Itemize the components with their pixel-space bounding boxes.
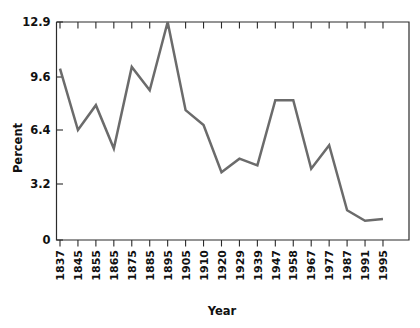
y-axis-tick-group — [57, 22, 64, 240]
x-axis-tick-label: 1905 — [180, 250, 193, 281]
x-axis-tick-label: 1977 — [323, 250, 336, 281]
y-axis-tick-labels: 03.26.49.612.9 — [22, 15, 50, 247]
x-axis-tick-label: 1885 — [144, 250, 157, 281]
x-axis-tick-label: 1967 — [305, 250, 318, 281]
x-axis-tick-label: 1865 — [108, 250, 121, 281]
x-axis-tick-label: 1875 — [126, 250, 139, 281]
y-axis-tick-label: 0 — [42, 233, 50, 247]
x-axis-tick-label: 1895 — [162, 250, 175, 281]
x-axis-tick-label: 1920 — [216, 250, 229, 281]
y-axis-title: Percent — [11, 122, 25, 173]
x-axis-tick-label: 1987 — [341, 250, 354, 281]
x-axis-title: Year — [207, 304, 237, 318]
y-axis-tick-label: 9.6 — [30, 70, 50, 84]
axis-frame — [57, 22, 410, 240]
x-axis-tick-label: 1837 — [54, 250, 67, 281]
x-axis-tick-label: 1929 — [234, 250, 247, 281]
chart-container: 03.26.49.612.9 1837184518551865187518851… — [0, 0, 420, 328]
data-series-line — [60, 22, 383, 221]
x-axis-tick-label: 1855 — [90, 250, 103, 281]
line-chart-svg: 03.26.49.612.9 1837184518551865187518851… — [0, 0, 420, 328]
y-axis-tick-label: 6.4 — [30, 123, 50, 137]
y-axis-tick-label: 3.2 — [30, 177, 50, 191]
x-axis-tick-label: 1947 — [270, 250, 283, 281]
x-axis-tick-label: 1910 — [198, 250, 211, 281]
x-axis-tick-label: 1939 — [252, 250, 265, 281]
x-axis-tick-labels: 1837184518551865187518851895190519101920… — [54, 250, 390, 281]
x-axis-tick-label: 1958 — [287, 250, 300, 281]
y-axis-tick-label: 12.9 — [22, 15, 50, 29]
x-axis-tick-label: 1845 — [72, 250, 85, 281]
x-axis-tick-label: 1991 — [359, 250, 372, 281]
x-axis-tick-label: 1995 — [377, 250, 390, 281]
